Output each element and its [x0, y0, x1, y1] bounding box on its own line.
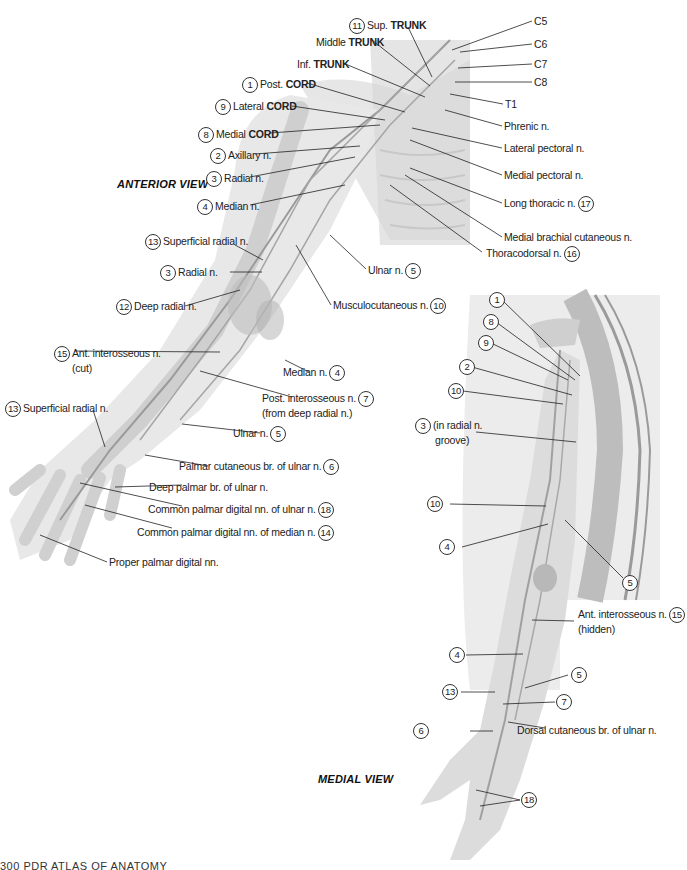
medial-label-1: 1 — [487, 292, 507, 308]
label-lateral-pectoral-n: Lateral pectoral n. — [504, 142, 584, 154]
label-common-palmar-digital-ulnar: Common palmar digital nn. of ulnar n.18 — [148, 502, 336, 518]
label-medial-brachial-cutaneous-n: Medial brachial cutaneous n. — [504, 231, 632, 243]
label-proper-palmar-digital-nn: Proper palmar digital nn. — [109, 556, 218, 568]
medial-view-title: MEDIAL VIEW — [318, 773, 393, 785]
anterior-view-title: ANTERIOR VIEW — [117, 178, 208, 190]
label-radial-n: 3Radial n. — [204, 171, 264, 187]
label-musculocutaneous-n: Musculocutaneous n.10 — [333, 298, 448, 314]
label-axillary-n: 2Axillary n. — [208, 148, 271, 164]
medial-label-2: 2 — [457, 359, 477, 375]
medial-label-6-dorsal-cutaneous: 6Dorsal cutaneous br. of ulnar n. — [411, 723, 657, 739]
page-footer: 300 PDR ATLAS OF ANATOMY — [0, 860, 167, 870]
label-c5: C5 — [534, 15, 547, 27]
medial-label-3-radial-groove: 3(in radial n.groove) — [413, 418, 482, 446]
medial-label-5-lower: 5 — [569, 667, 589, 683]
label-radial-n-2: 3Radial n. — [158, 265, 218, 281]
medial-label-4-lower: 4 — [447, 647, 467, 663]
label-medial-cord: 8Medial CORD — [196, 127, 279, 143]
label-c8: C8 — [534, 76, 547, 88]
label-phrenic-n: Phrenic n. — [504, 120, 549, 132]
medial-label-ant-interosseous-hidden: Ant. interosseous n.15(hidden) — [578, 607, 687, 635]
label-inf-trunk: Inf. TRUNK — [297, 58, 349, 70]
medial-label-5: 5 — [620, 575, 640, 591]
label-palmar-cutaneous-br-ulnar-n: Palmar cutaneous br. of ulnar n.6 — [179, 459, 341, 475]
label-ulnar-n-2: Ulnar n.5 — [233, 426, 288, 442]
label-ulnar-n: Ulnar n.5 — [368, 263, 423, 279]
label-post-cord: 1Post. CORD — [240, 77, 316, 93]
label-c6: C6 — [534, 38, 547, 50]
label-medial-pectoral-n: Medial pectoral n. — [504, 169, 583, 181]
medial-label-8: 8 — [481, 314, 501, 330]
label-c7: C7 — [534, 58, 547, 70]
medial-label-10-lower: 10 — [425, 496, 445, 512]
label-thoracodorsal-n: Thoracodorsal n.16 — [486, 246, 582, 262]
medial-label-7: 7 — [554, 694, 574, 710]
label-median-n: 4Median n. — [195, 199, 259, 215]
medial-label-4: 4 — [437, 539, 457, 555]
medial-label-18: 18 — [519, 792, 539, 808]
label-t1: T1 — [505, 98, 517, 110]
label-common-palmar-digital-median: Common palmar digital nn. of median n.14 — [137, 525, 336, 541]
medial-label-10: 10 — [446, 383, 466, 399]
label-superficial-radial-n: 13Superficial radial n. — [143, 234, 248, 250]
label-lateral-cord: 9Lateral CORD — [213, 99, 297, 115]
label-sup-trunk: 11Sup. TRUNK — [347, 18, 426, 34]
label-deep-palmar-br-ulnar-n: Deep palmar br. of ulnar n. — [149, 481, 268, 493]
medial-label-9: 9 — [476, 335, 496, 351]
label-middle-trunk: Middle TRUNK — [316, 36, 384, 48]
label-post-interosseous-n: Post. interosseous n.7(from deep radial … — [262, 391, 376, 419]
label-median-n-2: Median n.4 — [283, 365, 347, 381]
medial-label-13: 13 — [440, 684, 460, 700]
label-superficial-radial-n-2: 13Superficial radial n. — [3, 401, 108, 417]
label-deep-radial-n: 12Deep radial n. — [114, 299, 197, 315]
label-ant-interosseous-n-cut: 15Ant. interosseous n.(cut) — [52, 346, 161, 374]
label-long-thoracic-n: Long thoracic n.17 — [504, 196, 596, 212]
